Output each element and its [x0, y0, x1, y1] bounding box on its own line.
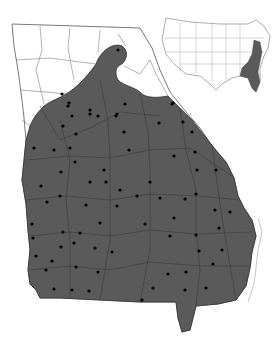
- georgia-map: [0, 0, 280, 344]
- us-inset-map: [162, 18, 270, 92]
- distribution-map: [0, 0, 280, 344]
